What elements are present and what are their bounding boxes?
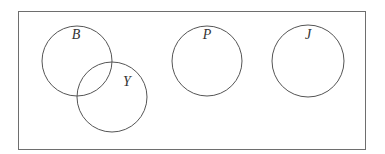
set-j: J (272, 25, 344, 97)
universe-rectangle (19, 12, 366, 150)
set-y-label: Y (123, 74, 133, 89)
set-p-label: P (202, 27, 212, 42)
set-y: Y (77, 62, 147, 132)
set-b: B (42, 26, 112, 96)
set-b-label: B (72, 27, 81, 42)
set-y-circle (77, 62, 147, 132)
set-j-label: J (305, 27, 312, 42)
set-p: P (172, 26, 242, 96)
venn-diagram: B Y P J (0, 0, 385, 154)
